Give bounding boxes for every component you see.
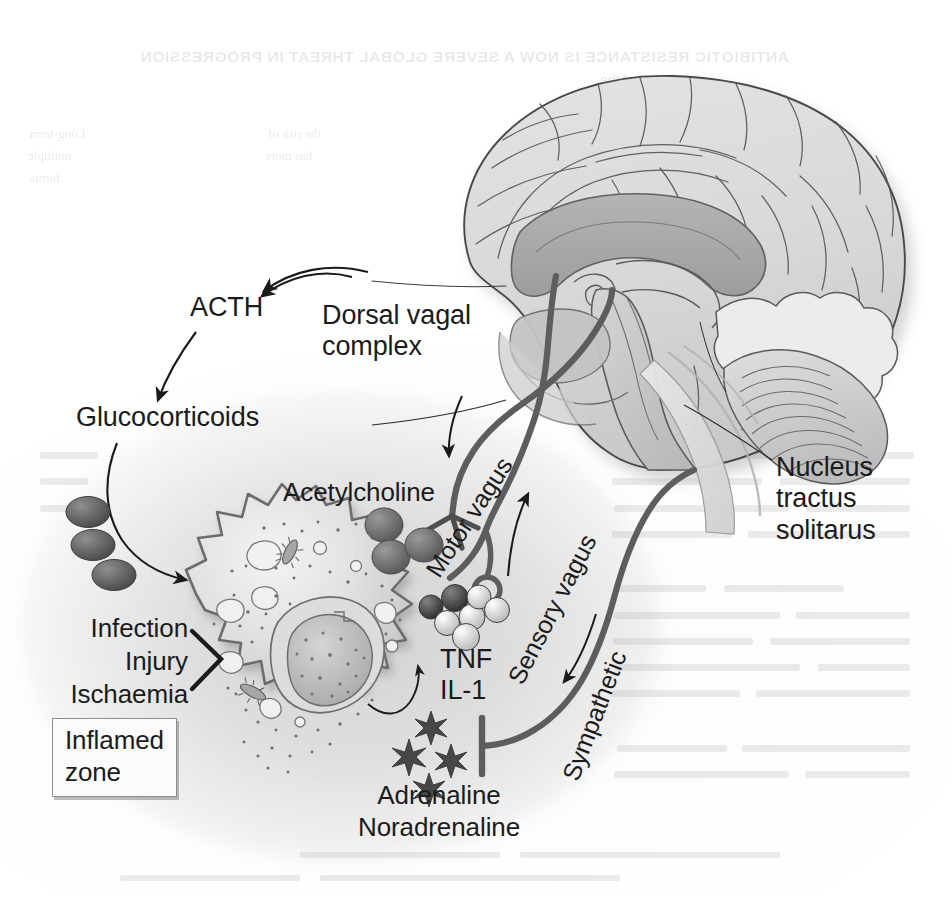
label-line: Noradrenaline — [358, 812, 520, 844]
ghost-text-left-col-3: forms — [30, 170, 60, 186]
figure-canvas: ANTIBIOTIC RESISTANCE IS NOW A SEVERE GL… — [0, 0, 951, 897]
label-stimuli: Infection Injury Ischaemia — [42, 612, 188, 710]
ghost-text-top-sub: of the — [600, 72, 635, 88]
label-cytokines: TNF IL-1 — [440, 644, 492, 707]
label-motor-vagus: Motor vagus — [420, 452, 519, 582]
inflamed-zone-box: Inflamed zone — [52, 718, 177, 797]
label-sympathetic: Sympathetic — [556, 647, 632, 785]
ghost-text-right-col-2: has more — [265, 148, 312, 164]
ghost-text-left-col-1: Long-term — [30, 126, 86, 142]
label-line: Dorsal vagal — [322, 300, 471, 331]
label-sensory-vagus: Sensory vagus — [502, 530, 602, 689]
label-line: Ischaemia — [42, 678, 188, 711]
label-line: zone — [65, 757, 164, 789]
label-dorsal-vagal-complex: Dorsal vagal complex — [322, 300, 471, 363]
label-glucocorticoids: Glucocorticoids — [76, 402, 259, 433]
ghost-text-left-col-2: multiple — [28, 148, 71, 164]
label-line: tractus — [776, 483, 876, 514]
label-line: Injury — [42, 645, 188, 678]
label-line: Adrenaline — [358, 780, 520, 812]
label-line: Nucleus — [776, 452, 876, 483]
ghost-text-top-heading: ANTIBIOTIC RESISTANCE IS NOW A SEVERE GL… — [140, 48, 789, 66]
label-acth: ACTH — [190, 292, 263, 323]
label-line: Inflamed — [65, 725, 164, 757]
label-line: TNF — [440, 644, 492, 675]
label-inflamed-zone: Inflamed zone — [65, 725, 164, 788]
label-line: IL-1 — [440, 675, 492, 706]
label-line: solitarus — [776, 515, 876, 546]
ghost-text-right-col-1: the risk of — [268, 126, 321, 142]
label-line: Infection — [42, 612, 188, 645]
label-line: complex — [322, 331, 471, 362]
label-acetylcholine: Acetylcholine — [283, 477, 435, 507]
label-nucleus-tractus-solitarus: Nucleus tractus solitarus — [776, 452, 876, 546]
label-catecholamines: Adrenaline Noradrenaline — [358, 780, 520, 843]
